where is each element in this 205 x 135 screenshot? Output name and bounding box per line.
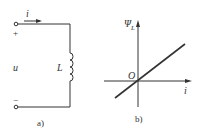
bottom-terminal bbox=[14, 105, 18, 109]
x-axis-label: i bbox=[184, 85, 187, 96]
origin-label: O bbox=[128, 70, 135, 81]
top-terminal bbox=[14, 22, 18, 26]
y-axis-label: ΨL bbox=[124, 18, 135, 32]
linear-characteristic-line bbox=[115, 44, 185, 98]
figure-canvas: i + − u L a) ΨL O i b) bbox=[0, 0, 205, 135]
inductor-label: L bbox=[56, 62, 63, 73]
minus-sign: − bbox=[13, 95, 18, 105]
inductor-coil-icon bbox=[70, 53, 73, 81]
y-axis-arrow-icon bbox=[136, 20, 140, 27]
voltage-label: u bbox=[13, 62, 18, 73]
circuit-diagram bbox=[14, 21, 73, 109]
flux-current-plot bbox=[104, 24, 188, 107]
caption-a: a) bbox=[37, 118, 44, 128]
plus-sign: + bbox=[13, 28, 18, 38]
current-label: i bbox=[26, 8, 29, 19]
x-axis-arrow-icon bbox=[185, 79, 192, 83]
current-arrow-icon bbox=[36, 19, 42, 23]
caption-b: b) bbox=[135, 114, 143, 124]
